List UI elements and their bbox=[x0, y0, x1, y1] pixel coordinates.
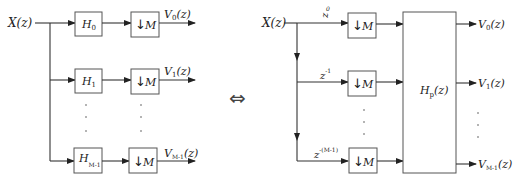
decimator-factor: M bbox=[144, 19, 157, 32]
output-label: V0(z) bbox=[478, 18, 505, 32]
decimator-factor: M bbox=[362, 156, 375, 169]
polyphase-equivalence-diagram: X(z) H0 ↓ M V0(z) H1 ↓ M V1(z) HM-1 bbox=[0, 0, 513, 180]
polyphase-matrix-label: Hp(z) bbox=[419, 84, 448, 99]
input-label-left: X(z) bbox=[7, 16, 33, 30]
right-diagram: X(z) z 0 ↓ M z-1 ↓ M z-(M-1) ↓ M Hp(z bbox=[261, 5, 512, 173]
output-label: V0(z) bbox=[164, 8, 191, 22]
left-diagram: X(z) H0 ↓ M V0(z) H1 ↓ M V1(z) HM-1 bbox=[7, 8, 198, 173]
delay-label: z-1 bbox=[319, 67, 331, 81]
delay-label: z-(M-1) bbox=[313, 146, 338, 160]
delay-exponent: 0 bbox=[326, 5, 330, 12]
decimator-factor: M bbox=[144, 76, 157, 89]
output-label: V1(z) bbox=[164, 65, 191, 79]
output-label: VM-1(z) bbox=[164, 147, 198, 160]
decimator-factor: M bbox=[361, 20, 374, 33]
delay-label: z bbox=[319, 12, 330, 19]
input-label-right: X(z) bbox=[261, 16, 287, 30]
ellipsis-dots bbox=[85, 104, 142, 132]
output-label: V1(z) bbox=[478, 77, 505, 91]
output-label: VM-1(z) bbox=[478, 158, 512, 171]
equivalence-icon: ⇔ bbox=[229, 86, 246, 110]
decimator-factor: M bbox=[361, 78, 374, 91]
decimator-factor: M bbox=[142, 156, 155, 169]
